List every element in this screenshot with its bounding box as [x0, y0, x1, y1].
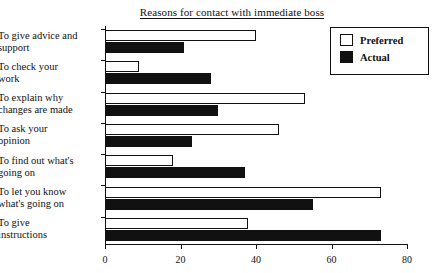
- bar-actual: [105, 42, 184, 53]
- bar-chart: Reasons for contact with immediate boss …: [0, 0, 438, 273]
- legend-swatch-preferred: [340, 34, 353, 46]
- bar-actual: [105, 73, 211, 84]
- legend-label-actual: Actual: [360, 52, 390, 63]
- bar-group: To explain why changes are made: [105, 89, 407, 120]
- category-label: To check your work: [0, 61, 98, 85]
- legend-label-preferred: Preferred: [360, 35, 403, 46]
- bar-preferred: [105, 93, 305, 104]
- bar-actual: [105, 136, 192, 147]
- legend-item-preferred: Preferred: [340, 34, 428, 46]
- legend-item-actual: Actual: [340, 51, 428, 63]
- x-axis-tick-label: 40: [251, 254, 261, 265]
- bar-group: To find out what's going on: [105, 151, 407, 182]
- bar-actual: [105, 230, 381, 241]
- category-label: To ask your opinion: [0, 123, 98, 147]
- x-axis-tick-label: 60: [327, 254, 337, 265]
- x-axis-tick: [332, 245, 333, 249]
- x-axis-tick-label: 80: [402, 254, 412, 265]
- bar-group: To let you know what's going on: [105, 182, 407, 213]
- legend-swatch-actual: [340, 51, 353, 63]
- category-label: To give advice and support: [0, 30, 98, 54]
- chart-title-text: Reasons for contact with immediate boss: [140, 6, 324, 19]
- bar-preferred: [105, 218, 248, 229]
- category-label: To give instructions: [0, 217, 98, 241]
- chart-title: Reasons for contact with immediate boss: [0, 6, 438, 18]
- x-axis-tick: [105, 245, 106, 249]
- bar-preferred: [105, 124, 279, 135]
- bar-preferred: [105, 155, 173, 166]
- bar-actual: [105, 167, 245, 178]
- bar-group: To ask your opinion: [105, 120, 407, 151]
- category-label: To explain why changes are made: [0, 92, 98, 116]
- x-axis-tick: [256, 245, 257, 249]
- chart-legend: Preferred Actual: [330, 27, 429, 75]
- bar-actual: [105, 199, 313, 210]
- bar-preferred: [105, 187, 381, 198]
- category-label: To find out what's going on: [0, 155, 98, 179]
- bar-actual: [105, 105, 218, 116]
- category-label: To let you know what's going on: [0, 186, 98, 210]
- x-axis-tick: [407, 245, 408, 249]
- x-axis-tick: [181, 245, 182, 249]
- x-axis-tick-label: 20: [176, 254, 186, 265]
- bar-group: To give instructions: [105, 214, 407, 245]
- x-axis-tick-label: 0: [103, 254, 108, 265]
- bar-preferred: [105, 61, 139, 72]
- bar-preferred: [105, 30, 256, 41]
